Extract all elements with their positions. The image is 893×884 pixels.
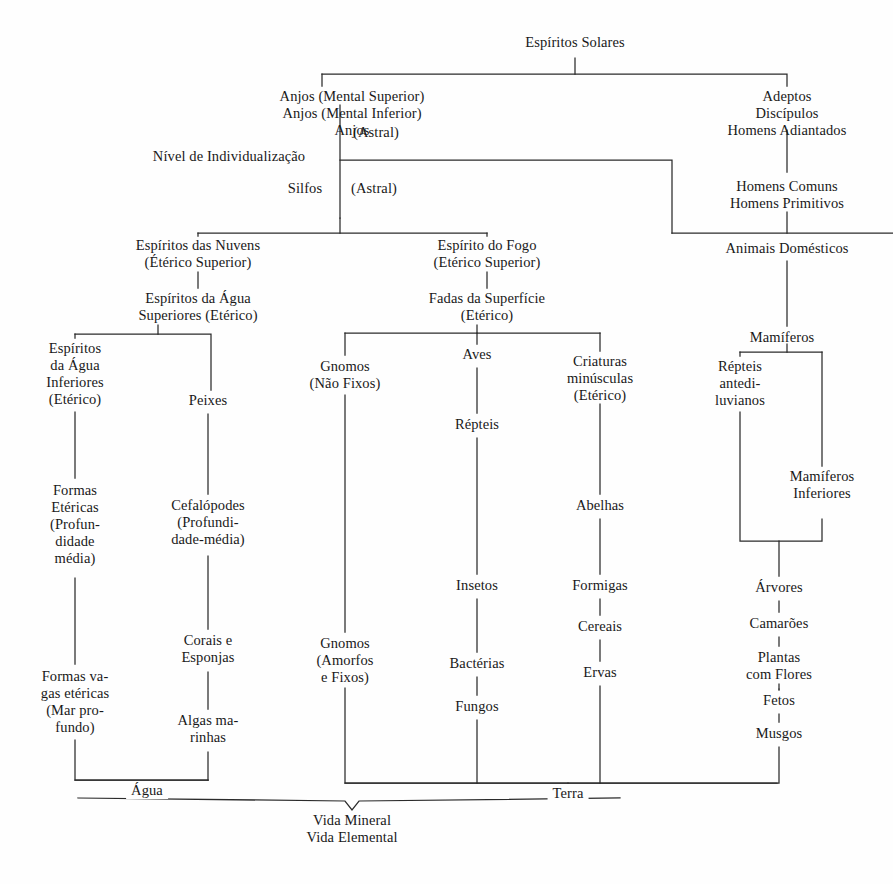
node-ervas: Ervas — [583, 664, 617, 681]
node-abelhas: Abelhas — [576, 497, 624, 514]
node-formas-vagas: Formas va- gas etéricas (Mar pro- fundo) — [41, 668, 109, 736]
node-vida-mineral-elemental: Vida Mineral Vida Elemental — [306, 812, 397, 846]
node-nivel-individualizacao: Nível de Individualização — [153, 148, 305, 165]
node-espiritos-agua-superiores: Espíritos da Água Superiores (Etérico) — [138, 290, 257, 324]
node-corais-e-esponjas: Corais e Esponjas — [181, 632, 234, 666]
node-algas-marinhas: Algas ma- rinhas — [178, 712, 239, 746]
wire-base-line — [78, 798, 620, 810]
diagram-canvas: Espíritos Solares Anjos (Mental Superior… — [0, 0, 893, 884]
node-camaroes: Camarões — [750, 615, 809, 632]
wire-vagas-to-agua-bar — [75, 740, 208, 780]
node-arvores: Árvores — [755, 579, 802, 596]
wire-top-split — [322, 74, 787, 86]
node-cereais: Cereais — [578, 618, 622, 635]
node-espiritos-das-nuvens: Espíritos das Nuvens (Étérico Superior) — [136, 237, 260, 271]
node-repteis: Répteis — [455, 416, 499, 433]
node-plantas-com-flores: Plantas com Flores — [746, 649, 812, 683]
node-espiritos-solares: Espíritos Solares — [525, 34, 625, 51]
node-aves: Aves — [462, 346, 491, 363]
node-homens-comuns: Homens Comuns Homens Primitivos — [730, 178, 844, 212]
node-formas-etericas: Formas Etéricas (Profun- didade média) — [50, 482, 100, 567]
node-gnomos-nao-fixos: Gnomos (Não Fixos) — [310, 358, 381, 392]
node-bacterias: Bactérias — [450, 655, 505, 672]
node-repteis-antediluvianos: Répteis antedi- luvianos — [715, 358, 765, 409]
label-terra: Terra — [548, 785, 589, 802]
node-peixes: Peixes — [189, 392, 227, 409]
node-anjos-grupo: Anjos (Mental Superior) Anjos (Mental In… — [280, 88, 425, 139]
node-silfos: Silfos — [288, 180, 322, 197]
node-anjos-astral: (Astral) — [353, 124, 399, 141]
node-insetos: Insetos — [456, 577, 498, 594]
node-animais-domesticos: Animais Domésticos — [725, 240, 848, 257]
node-fadas-da-superficie: Fadas da Superfície (Etérico) — [429, 290, 545, 324]
node-fetos: Fetos — [763, 692, 795, 709]
node-cefalopodes: Cefalópodes (Profundi- dade-média) — [171, 497, 245, 548]
node-fungos: Fungos — [455, 698, 498, 715]
node-mamiferos: Mamíferos — [750, 329, 815, 346]
node-formigas: Formigas — [572, 577, 628, 594]
node-criaturas-minusculas: Criaturas minúsculas (Etérico) — [567, 353, 633, 404]
node-musgos: Musgos — [756, 725, 803, 742]
label-agua: Água — [126, 782, 168, 799]
node-adeptos-grupo: Adeptos Discípulos Homens Adiantados — [728, 88, 847, 139]
node-espiritos-agua-inferiores: Espíritos da Água Inferiores (Etérico) — [46, 340, 103, 408]
node-gnomos-amorfos: Gnomos (Amorfos e Fixos) — [316, 635, 373, 686]
node-mamiferos-inferiores: Mamíferos Inferiores — [790, 468, 855, 502]
node-espirito-do-fogo: Espírito do Fogo (Etérico Superior) — [434, 237, 541, 271]
node-silfos-astral: (Astral) — [351, 180, 397, 197]
